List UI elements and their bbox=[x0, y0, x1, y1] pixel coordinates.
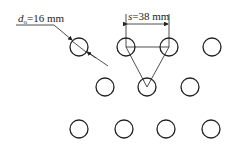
hole-pattern-diagram: do=16 mm s=38 mm bbox=[0, 0, 238, 147]
diameter-dimension bbox=[16, 25, 108, 66]
pitch-dimension bbox=[126, 14, 169, 87]
hole-circle bbox=[96, 78, 114, 96]
diameter-label: do=16 mm bbox=[18, 12, 65, 26]
hole-circle bbox=[202, 120, 220, 138]
hole-circle bbox=[70, 120, 88, 138]
hole-circle bbox=[203, 38, 221, 56]
holes bbox=[70, 38, 221, 138]
hole-circle bbox=[181, 78, 199, 96]
hole-circle bbox=[157, 120, 175, 138]
pitch-label: s=38 mm bbox=[128, 10, 170, 22]
hole-circle bbox=[115, 120, 133, 138]
